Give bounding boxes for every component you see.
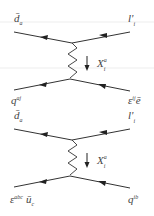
boson-propagator [68, 43, 77, 78]
fermion-line-top-right [72, 129, 130, 140]
label-bottom-right: εijē [128, 94, 141, 106]
fermion-arrow-icon [98, 181, 106, 186]
label-boson: Xai [96, 57, 107, 72]
label-bottom-left: qaj [11, 94, 22, 106]
label-boson: Xai [96, 154, 107, 169]
diagram-lower: d̄a l'i Xai εabcūc qib [10, 109, 138, 207]
fermion-arrow-icon [98, 84, 106, 89]
label-top-left: d̄a [14, 109, 23, 123]
label-top-right: l'i [128, 12, 135, 27]
label-top-right: l'i [128, 109, 135, 124]
label-bottom-left: εabcūc [10, 193, 35, 207]
boson-propagator [68, 140, 77, 175]
label-bottom-right: qib [128, 193, 138, 205]
label-top-left: d̄a [14, 12, 23, 26]
fermion-line-top-right [72, 32, 130, 43]
feynman-diagrams: d̄a l'i Xai qaj εijē d̄a l'i Xai εabcūc … [0, 0, 154, 216]
fermion-arrow-icon [40, 132, 48, 137]
diagram-upper: d̄a l'i Xai qaj εijē [11, 12, 141, 106]
fermion-arrow-icon [40, 35, 48, 40]
down-arrow-icon-head [85, 162, 90, 168]
